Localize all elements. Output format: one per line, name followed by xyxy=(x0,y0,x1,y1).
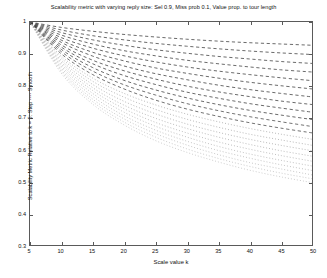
y-tick-label: 0.7 xyxy=(4,114,26,120)
x-tick-mark xyxy=(62,242,63,245)
x-tick-mark xyxy=(282,22,283,25)
x-tick-label: 40 xyxy=(247,248,253,254)
x-tick-mark xyxy=(156,242,157,245)
x-tick-label: 15 xyxy=(89,248,95,254)
x-tick-label: 35 xyxy=(215,248,221,254)
x-tick-mark xyxy=(93,242,94,245)
x-tick-mark xyxy=(188,22,189,25)
y-tick-mark xyxy=(309,86,312,87)
x-axis-title: Scale value k xyxy=(29,259,313,265)
x-tick-label: 25 xyxy=(152,248,158,254)
data-curve xyxy=(30,22,312,139)
data-curve xyxy=(30,22,312,126)
x-tick-label: 5 xyxy=(27,248,30,254)
x-tick-mark xyxy=(219,242,220,245)
x-tick-mark xyxy=(93,22,94,25)
data-curve xyxy=(30,22,312,161)
data-curve xyxy=(30,22,312,145)
y-tick-label: 0.6 xyxy=(4,147,26,153)
y-tick-mark xyxy=(309,151,312,152)
y-tick-label: 0.9 xyxy=(4,50,26,56)
x-tick-label: 50 xyxy=(310,248,316,254)
x-tick-mark xyxy=(282,242,283,245)
x-tick-mark xyxy=(188,242,189,245)
data-curve xyxy=(30,22,312,97)
x-tick-label: 45 xyxy=(278,248,284,254)
x-tick-mark xyxy=(62,22,63,25)
y-tick-label: 0.3 xyxy=(4,243,26,249)
y-tick-mark xyxy=(309,54,312,55)
y-tick-label: 0.4 xyxy=(4,211,26,217)
data-curve xyxy=(30,22,312,179)
y-tick-mark xyxy=(309,183,312,184)
chart-figure: Scalability metric with varying reply si… xyxy=(0,0,327,278)
y-tick-mark xyxy=(309,118,312,119)
y-tick-mark xyxy=(309,22,312,23)
data-curve xyxy=(30,22,312,119)
data-curve xyxy=(30,22,312,170)
x-tick-label: 10 xyxy=(57,248,63,254)
y-tick-label: 0.5 xyxy=(4,179,26,185)
y-tick-label: 0.8 xyxy=(4,82,26,88)
x-tick-label: 20 xyxy=(121,248,127,254)
plot-area xyxy=(29,21,313,246)
x-tick-mark xyxy=(251,22,252,25)
curve-series-group xyxy=(30,22,312,245)
data-curve xyxy=(30,22,312,151)
x-tick-mark xyxy=(251,242,252,245)
y-tick-mark xyxy=(309,215,312,216)
x-tick-mark xyxy=(30,242,31,245)
data-curve xyxy=(30,22,312,183)
y-tick-mark xyxy=(30,22,33,23)
y-tick-label: 1 xyxy=(4,18,26,24)
data-curve xyxy=(30,22,312,63)
data-curve xyxy=(30,22,312,81)
x-tick-mark xyxy=(156,22,157,25)
x-tick-mark xyxy=(125,22,126,25)
x-tick-label: 30 xyxy=(184,248,190,254)
data-curve xyxy=(30,22,312,105)
data-curve xyxy=(30,22,312,112)
x-tick-mark xyxy=(219,22,220,25)
chart-title: Scalability metric with varying reply si… xyxy=(0,4,327,11)
x-tick-mark xyxy=(125,242,126,245)
y-axis-title: Scalability Metric Relative to k = 5: St… xyxy=(27,46,33,226)
